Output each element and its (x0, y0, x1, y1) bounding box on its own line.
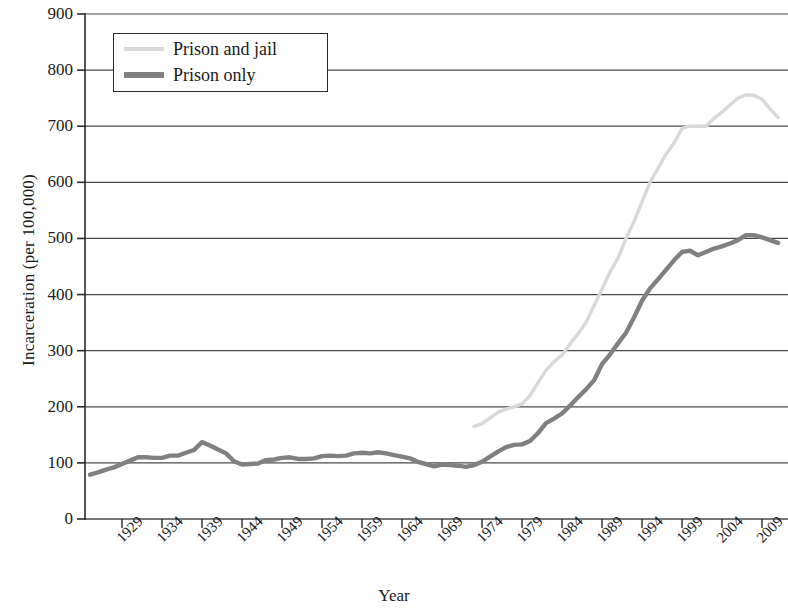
legend-swatch-prison-only (124, 72, 164, 78)
y-tick-label: 800 (23, 61, 73, 78)
legend-label-prison-only: Prison only (173, 64, 256, 86)
chart-container: Incarceration (per 100,000) Year 9008007… (0, 0, 788, 613)
legend-label-prison-and-jail: Prison and jail (173, 38, 277, 60)
legend: Prison and jail Prison only (113, 33, 328, 92)
series-line-prison-and-jail (474, 95, 778, 427)
x-axis-title: Year (0, 586, 788, 606)
legend-item-prison-only: Prison only (124, 64, 256, 86)
y-tick-label: 500 (23, 229, 73, 246)
y-tick-label: 0 (23, 510, 73, 527)
y-tick-label: 400 (23, 286, 73, 303)
y-tick-label: 300 (23, 342, 73, 359)
legend-swatch-prison-and-jail (124, 47, 164, 51)
series-line-prison-only (90, 235, 778, 475)
legend-item-prison-and-jail: Prison and jail (124, 38, 277, 60)
y-tick-label: 100 (23, 454, 73, 471)
y-tick-label: 600 (23, 173, 73, 190)
y-tick-label: 900 (23, 5, 73, 22)
y-tick-label: 700 (23, 117, 73, 134)
y-tick-label: 200 (23, 398, 73, 415)
